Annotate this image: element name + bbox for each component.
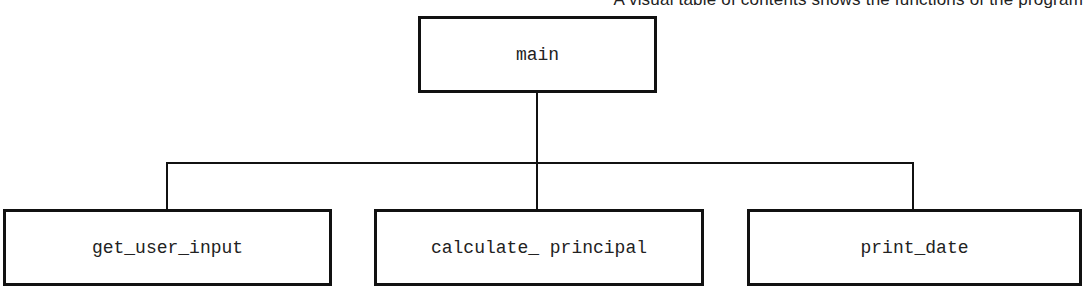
connector-to-child-2 xyxy=(536,162,538,211)
connector-root-down xyxy=(536,92,538,164)
connector-to-child-3 xyxy=(912,162,914,211)
node-calculate-principal-label: calculate_ principal xyxy=(431,238,647,258)
node-print-date: print_date xyxy=(747,209,1082,286)
figure-caption: A visual table of contents shows the fun… xyxy=(0,0,1087,10)
connector-horizontal-bus xyxy=(166,162,914,164)
node-get-user-input-label: get_user_input xyxy=(92,238,243,258)
node-print-date-label: print_date xyxy=(860,238,968,258)
node-get-user-input: get_user_input xyxy=(3,209,332,286)
node-main-label: main xyxy=(516,45,559,65)
node-main: main xyxy=(418,16,657,93)
connector-to-child-1 xyxy=(166,162,168,211)
node-calculate-principal: calculate_ principal xyxy=(374,209,704,286)
